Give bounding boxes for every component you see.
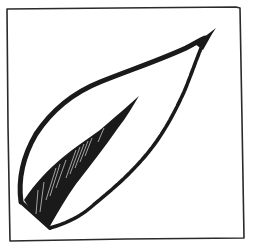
leaf-sketch — [0, 0, 253, 249]
sketch-canvas: Hand-drawn ink sketch of a single leaf i… — [0, 0, 253, 249]
leaf-midrib — [24, 96, 139, 226]
